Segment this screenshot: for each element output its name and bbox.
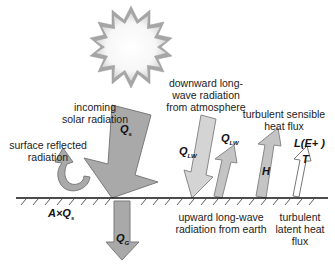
sensible-line-1: turbulent sensible bbox=[236, 108, 332, 120]
ground-heat-flux-arrow bbox=[106, 201, 139, 260]
incoming-solar-label: incoming solar radiation bbox=[50, 101, 140, 125]
ground-hatching bbox=[21, 199, 314, 205]
aqs-main: A×Q bbox=[48, 207, 71, 219]
sun-icon bbox=[90, 6, 172, 88]
upward-longwave-arrow bbox=[214, 145, 237, 198]
symbol-le: L(E+ ) bbox=[294, 137, 325, 149]
upward-lw-line-1: upward long-wave bbox=[174, 211, 268, 223]
symbol-h: H bbox=[262, 165, 270, 177]
symbol-qlw-down: QLW bbox=[179, 145, 197, 159]
sensible-heat-arrow bbox=[256, 128, 281, 198]
latent-line-3: flux bbox=[270, 235, 330, 247]
reflected-line-2: radiation bbox=[0, 151, 96, 163]
qlw-main: Q bbox=[179, 145, 188, 157]
incoming-solar-line-1: incoming bbox=[50, 101, 140, 113]
latent-heat-label: turbulent latent heat flux bbox=[270, 211, 330, 247]
le-main: L(E+ ) bbox=[294, 137, 325, 149]
h-main: H bbox=[262, 165, 270, 177]
qs-sub: s bbox=[129, 131, 132, 137]
sensible-line-2: heat flux bbox=[236, 120, 332, 132]
symbol-qs: Qs bbox=[120, 123, 132, 137]
symbol-qg: QG bbox=[116, 232, 129, 246]
t-main: T bbox=[302, 153, 309, 165]
aqs-sub: s bbox=[71, 215, 74, 221]
upward-lw-line-2: radiation from earth bbox=[174, 223, 268, 235]
reflected-label: surface reflected radiation bbox=[0, 139, 96, 163]
qlw-sub: LW bbox=[188, 153, 197, 159]
reflected-line-1: surface reflected bbox=[0, 139, 96, 151]
downward-lw-line-2: wave radiation bbox=[163, 89, 249, 101]
qs-main: Q bbox=[120, 123, 129, 135]
qlw-up-main: Q bbox=[221, 132, 230, 144]
qg-sub: G bbox=[125, 240, 130, 246]
symbol-aqs: A×Qs bbox=[48, 207, 74, 221]
downward-lw-line-1: downward long- bbox=[163, 77, 249, 89]
latent-line-2: latent heat bbox=[270, 223, 330, 235]
qlw-up-sub: LW bbox=[230, 140, 239, 146]
qg-main: Q bbox=[116, 232, 125, 244]
symbol-t: T bbox=[302, 153, 309, 165]
latent-line-1: turbulent bbox=[270, 211, 330, 223]
sensible-heat-label: turbulent sensible heat flux bbox=[236, 108, 332, 132]
symbol-qlw-up: QLW bbox=[221, 132, 239, 146]
upward-longwave-label: upward long-wave radiation from earth bbox=[174, 211, 268, 235]
